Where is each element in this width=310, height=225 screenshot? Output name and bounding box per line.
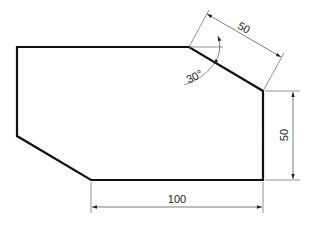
dimension-chamfer-angle: 30° (184, 36, 223, 85)
dimension-label-100: 100 (168, 193, 186, 205)
dimension-right-height: 50 (265, 91, 300, 180)
part-outline (17, 47, 263, 180)
dimension-label-50-chamfer: 50 (236, 19, 253, 36)
dimension-bottom-width: 100 (91, 182, 263, 213)
dimension-label-50-vertical: 50 (278, 129, 290, 141)
dimension-chamfer-length: 50 (189, 10, 284, 91)
technical-drawing: 100 50 50 30° (0, 0, 310, 225)
dimension-label-30-degrees: 30° (184, 67, 204, 85)
